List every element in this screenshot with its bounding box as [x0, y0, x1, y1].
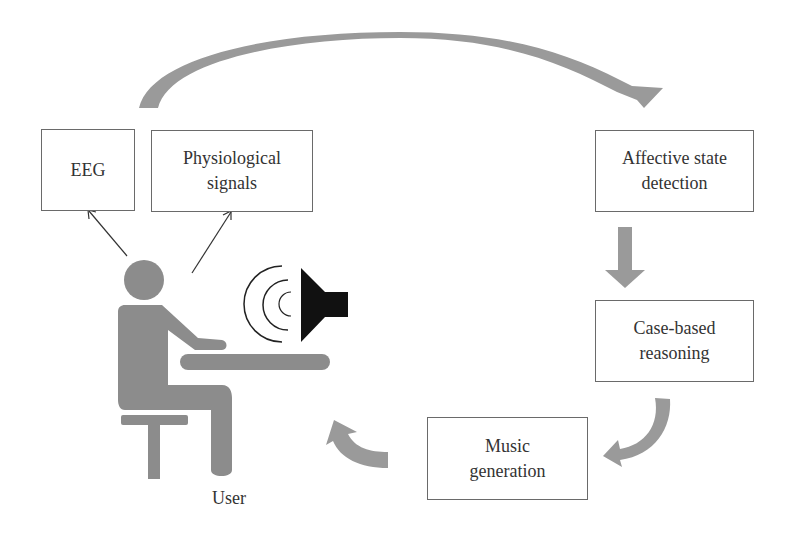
affective-label-line1: Affective state [622, 146, 727, 171]
case-based-reasoning-box: Case-based reasoning [595, 300, 754, 382]
physiological-signals-box: Physiological signals [151, 130, 313, 212]
affective-state-detection-box: Affective state detection [595, 130, 754, 212]
user-figure-icon [118, 260, 330, 479]
music-to-user-arrow [326, 420, 388, 468]
music-label-line2: generation [470, 459, 546, 484]
music-label-line1: Music [485, 434, 530, 459]
affective-label-line2: detection [642, 171, 708, 196]
physiological-label-line2: signals [207, 171, 257, 196]
cbr-label-line2: reasoning [640, 341, 710, 366]
music-generation-box: Music generation [427, 417, 588, 500]
eeg-label: EEG [71, 158, 106, 183]
physiological-label-line1: Physiological [183, 146, 281, 171]
user-label: User [212, 488, 246, 509]
thin-arrows [88, 210, 231, 273]
diagram-canvas [0, 0, 794, 534]
cbr-to-music-arrow [603, 398, 670, 467]
cbr-label-line1: Case-based [634, 316, 716, 341]
down-arrow [605, 227, 645, 288]
eeg-box: EEG [41, 129, 135, 211]
top-curved-arrow [139, 32, 663, 108]
speaker-icon [244, 266, 348, 342]
